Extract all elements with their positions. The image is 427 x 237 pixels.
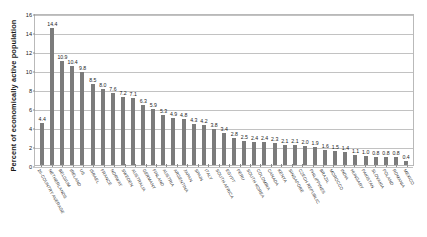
bar-value-label: 1.4 — [342, 145, 349, 151]
bar-column: 2.0 — [300, 15, 310, 165]
bar-value-label: 8.5 — [89, 77, 96, 83]
x-tick-mark — [125, 164, 126, 167]
bar-column: 5.9 — [148, 15, 158, 165]
bar — [212, 129, 216, 165]
x-axis-category: AUSTRIA — [161, 167, 171, 237]
bar — [323, 150, 327, 165]
x-tick-mark — [114, 164, 115, 167]
x-tick-mark — [365, 164, 366, 167]
x-axis-category: KENYA — [276, 167, 286, 237]
bar-column: 10.9 — [57, 15, 67, 165]
bar-value-label: 4.2 — [200, 118, 207, 124]
x-tick-mark — [229, 164, 230, 167]
bar-column: 1.4 — [340, 15, 350, 165]
x-axis-category: SOUTH KOREA — [245, 167, 255, 237]
x-axis-category: EGYPT — [224, 167, 234, 237]
bar-value-label: 8.0 — [99, 82, 106, 88]
bar-value-label: 3.4 — [221, 126, 228, 132]
bar-column: 3.4 — [219, 15, 229, 165]
bar-column: 4.8 — [179, 15, 189, 165]
bar-value-label: 7.1 — [130, 91, 137, 97]
bar — [242, 141, 246, 165]
bar — [343, 152, 347, 165]
bar-value-label: 14.4 — [47, 21, 57, 27]
x-axis-category: GERMANY — [140, 167, 150, 237]
x-axis-category: NORWAY — [109, 167, 119, 237]
x-tick-mark — [386, 164, 387, 167]
bar-value-label: 6.3 — [140, 98, 147, 104]
x-tick-mark — [187, 164, 188, 167]
bar — [333, 151, 337, 165]
x-axis-category: US — [78, 167, 88, 237]
bar — [303, 146, 307, 165]
bar — [121, 97, 125, 165]
bar — [131, 98, 135, 165]
y-tick-label: 2 — [29, 145, 32, 151]
bar-chart: Percent of economically active populatio… — [0, 0, 427, 237]
x-tick-mark — [166, 164, 167, 167]
y-tick-label: 10 — [26, 69, 32, 75]
bar-value-label: 4.3 — [190, 117, 197, 123]
x-tick-mark — [156, 164, 157, 167]
bar-column: 14.4 — [47, 15, 57, 165]
x-axis-category: HUNGARY — [349, 167, 359, 237]
bar — [60, 61, 64, 165]
bar — [293, 145, 297, 165]
x-tick-mark — [333, 164, 334, 167]
x-tick-mark — [396, 164, 397, 167]
bar-value-label: 4.8 — [180, 112, 187, 118]
x-tick-mark — [260, 164, 261, 167]
x-axis-category: MEXICO — [401, 167, 411, 237]
bar — [232, 138, 236, 165]
x-tick-mark — [344, 164, 345, 167]
bar-value-label: 2.1 — [281, 138, 288, 144]
bar-value-label: 1.1 — [352, 148, 359, 154]
bar-value-label: 2.3 — [271, 136, 278, 142]
x-tick-mark — [198, 164, 199, 167]
y-tick-label: 8 — [29, 88, 32, 94]
bar — [182, 119, 186, 165]
x-tick-mark — [407, 164, 408, 167]
x-tick-mark — [146, 164, 147, 167]
bar-value-label: 2.1 — [291, 138, 298, 144]
bar-column: 2.3 — [270, 15, 280, 165]
bar-value-label: 0.8 — [392, 150, 399, 156]
bar-column: 10.4 — [67, 15, 77, 165]
y-tick-label: 0 — [29, 164, 32, 170]
bar-value-label: 2.0 — [301, 139, 308, 145]
bar-column: 2.1 — [290, 15, 300, 165]
bar-value-label: 0.4 — [403, 154, 410, 160]
x-tick-mark — [323, 164, 324, 167]
x-axis-category: PHILIPPINES — [307, 167, 317, 237]
x-tick-mark — [177, 164, 178, 167]
x-axis-category: 26-COUNTRY AVERAGE — [36, 167, 46, 237]
x-tick-mark — [375, 164, 376, 167]
x-axis-category: BRAZIL — [318, 167, 328, 237]
bar — [151, 109, 155, 165]
x-axis-category: SOUTH AFRICA — [213, 167, 223, 237]
x-axis-category: NETHERLANDS — [46, 167, 56, 237]
bar-value-label: 3.8 — [210, 122, 217, 128]
bar — [101, 89, 105, 165]
bar-column: 4.4 — [37, 15, 47, 165]
bar — [80, 72, 84, 165]
x-tick-mark — [104, 164, 105, 167]
bar-column: 9.8 — [77, 15, 87, 165]
bar-column: 0.8 — [371, 15, 381, 165]
bar-value-label: 1.9 — [312, 140, 319, 146]
bar-column: 1.6 — [320, 15, 330, 165]
bar-value-label: 1.0 — [362, 149, 369, 155]
x-axis-category: ITALY — [203, 167, 213, 237]
bar-column: 7.6 — [108, 15, 118, 165]
bar-column: 7.2 — [118, 15, 128, 165]
x-axis-category: ROMANIA — [391, 167, 401, 237]
x-axis-category: ARGENTINA — [172, 167, 182, 237]
bar-column: 8.0 — [98, 15, 108, 165]
bar-column: 1.9 — [310, 15, 320, 165]
y-tick-label: 4 — [29, 126, 32, 132]
x-tick-mark — [313, 164, 314, 167]
x-axis-category: SINGAPORE — [287, 167, 297, 237]
x-axis-category: INDIA — [339, 167, 349, 237]
x-axis-category: COLOMBIA — [255, 167, 265, 237]
bar — [111, 93, 115, 165]
